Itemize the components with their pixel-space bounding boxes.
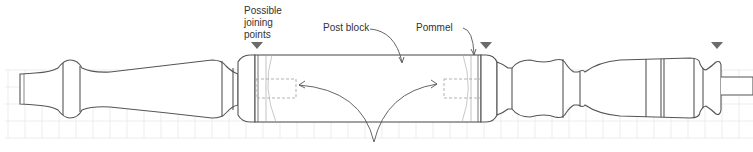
post-block-label: Post block <box>323 22 369 34</box>
marker-middle-icon <box>480 42 492 49</box>
left-baluster <box>20 60 238 118</box>
right-collar <box>481 55 497 122</box>
marker-left-icon <box>251 42 263 49</box>
marker-right-icon <box>711 42 723 49</box>
right-tenon <box>721 77 753 95</box>
joining-points-label: Possible joining points <box>244 5 282 41</box>
diagram-canvas <box>0 0 753 152</box>
joining-point-markers <box>251 42 723 49</box>
pommel-label: Pommel <box>416 22 453 34</box>
right-turnings <box>497 58 721 118</box>
pommel-leader <box>463 28 474 54</box>
turned-post-diagram: Possible joining points Post block Pomme… <box>0 0 753 152</box>
left-collar <box>238 55 255 122</box>
post-block <box>255 55 481 122</box>
